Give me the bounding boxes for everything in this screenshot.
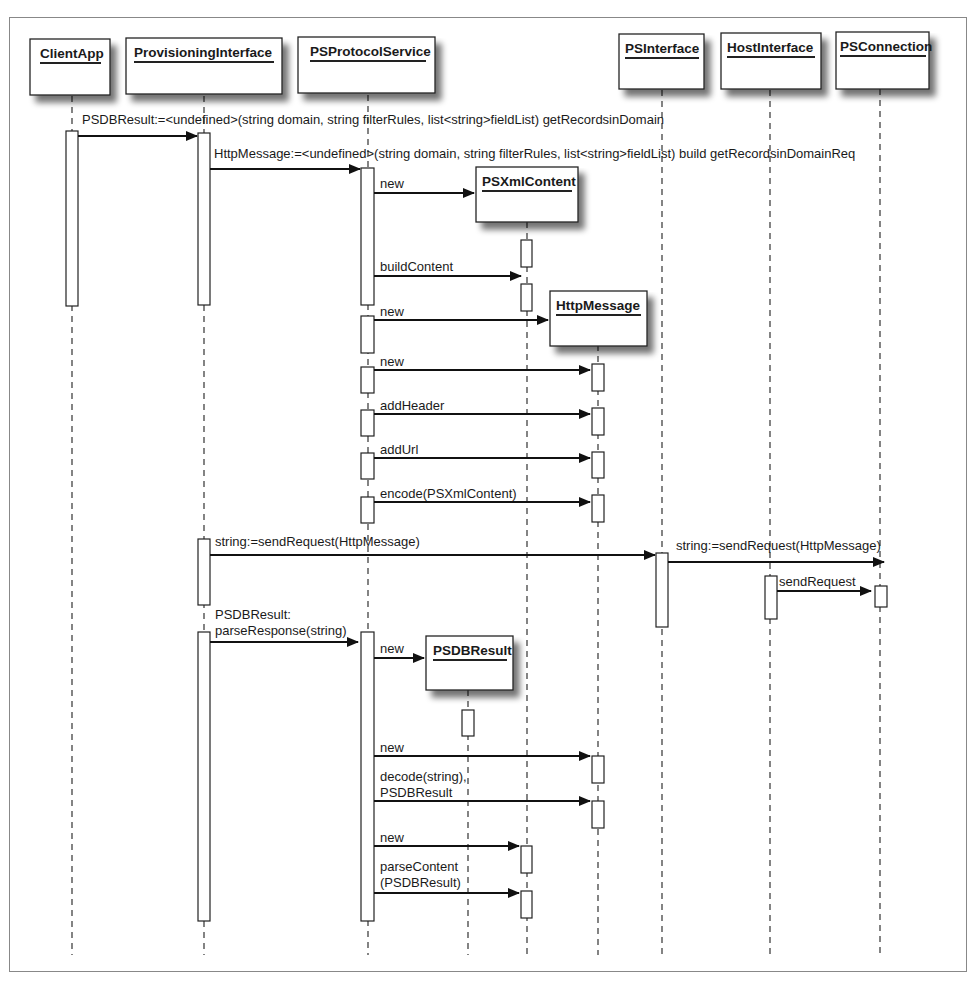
message-label: encode(PSXmlContent) [380, 486, 517, 501]
participant-label: PSXmlContent [482, 174, 576, 189]
message-label: new [380, 830, 404, 845]
activation-psprotocolservice-2 [361, 316, 374, 353]
participant-psxmlcontent: PSXmlContent [476, 167, 578, 222]
message-label: new [380, 354, 404, 369]
message-label-line1: parseContent [380, 859, 458, 874]
activation-provisioninginterface-1 [198, 133, 210, 305]
message-label: addUrl [380, 442, 418, 457]
message-label: string:=sendRequest(HttpMessage) [676, 538, 881, 553]
activation-psxmlcontent-3 [521, 846, 532, 873]
participant-label: ClientApp [40, 46, 104, 61]
message-label-line1: PSDBResult: [215, 607, 291, 622]
activation-httpmessage-4 [592, 495, 604, 522]
activation-psdbresult [462, 710, 474, 736]
activation-psconnection [875, 586, 887, 607]
activation-psxmlcontent-4 [521, 891, 532, 918]
participant-provisioninginterface: ProvisioningInterface [126, 38, 282, 94]
message-label: sendRequest [779, 574, 856, 589]
sequence-diagram: ClientApp ProvisioningInterface PSProtoc… [0, 0, 979, 987]
activation-psxmlcontent-2 [521, 284, 532, 311]
message-label: new [380, 740, 404, 755]
activation-httpmessage-6 [592, 801, 604, 828]
message-label: new [380, 176, 404, 191]
activation-httpmessage-1 [592, 364, 604, 391]
message-label: new [380, 641, 404, 656]
activation-hostinterface [765, 576, 777, 619]
message-label-line2: PSDBResult [380, 785, 453, 800]
message-label-line2: parseResponse(string) [215, 623, 347, 638]
participant-psprotocolservice: PSProtocolService [298, 37, 435, 93]
activation-provisioninginterface-2 [198, 539, 210, 605]
activation-psprotocolservice-7 [361, 632, 374, 921]
message-label-line2: (PSDBResult) [380, 875, 461, 890]
activation-clientapp [66, 131, 78, 306]
activation-psinterface [656, 553, 668, 627]
message-label: string:=sendRequest(HttpMessage) [215, 534, 420, 549]
participant-label: PSInterface [625, 41, 700, 56]
participant-label: PSProtocolService [310, 44, 431, 59]
message-label: buildContent [380, 259, 453, 274]
activation-psprotocolservice-5 [361, 453, 374, 479]
participant-httpmessage: HttpMessage [550, 291, 647, 346]
participant-label: PSDBResult [433, 643, 512, 658]
message-label: HttpMessage:=<undefined>(string domain, … [214, 146, 855, 161]
activation-psprotocolservice-4 [361, 410, 374, 436]
participant-label: HttpMessage [556, 298, 641, 313]
participant-psinterface: PSInterface [619, 34, 704, 89]
message-label: PSDBResult:=<undefined>(string domain, s… [82, 112, 664, 127]
participant-hostinterface: HostInterface [721, 33, 821, 89]
participant-psdbresult: PSDBResult [426, 636, 513, 690]
activation-bars [66, 131, 887, 921]
activation-psprotocolservice-6 [361, 497, 374, 523]
activation-httpmessage-2 [592, 408, 604, 435]
activation-psprotocolservice-3 [361, 367, 374, 393]
activation-httpmessage-5 [592, 756, 604, 783]
message-label: addHeader [380, 398, 445, 413]
message-label-line1: decode(string), [380, 769, 467, 784]
message-label: new [380, 304, 404, 319]
activation-provisioninginterface-3 [198, 632, 210, 921]
activation-psprotocolservice-1 [361, 168, 374, 305]
participant-label: PSConnection [840, 39, 932, 54]
activation-httpmessage-3 [592, 452, 604, 478]
participant-label: HostInterface [727, 40, 814, 55]
participant-clientapp: ClientApp [30, 39, 110, 95]
participant-psconnection: PSConnection [836, 32, 932, 89]
activation-psxmlcontent-1 [521, 240, 532, 267]
participant-label: ProvisioningInterface [134, 45, 273, 60]
